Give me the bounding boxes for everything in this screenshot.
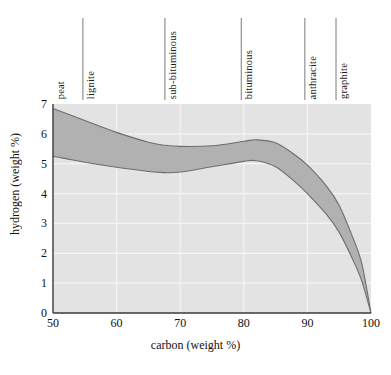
x-tick-label: 100	[362, 316, 380, 331]
y-tick-label: 1	[25, 276, 47, 291]
chart-figure: peat lignite sub-bituminous bituminous a…	[0, 0, 391, 375]
y-tick-label: 4	[25, 186, 47, 201]
category-divider-lines	[83, 18, 336, 100]
x-axis-title: carbon (weight %)	[0, 338, 391, 353]
y-tick-label: 3	[25, 216, 47, 231]
y-axis-title: hydrogen (weight %)	[8, 133, 23, 235]
x-tick-label: 50	[47, 316, 59, 331]
x-tick-label: 70	[174, 316, 186, 331]
x-tick-label: 80	[238, 316, 250, 331]
x-tick-label: 90	[301, 316, 313, 331]
y-tick-label: 0	[25, 306, 47, 321]
category-label-sub-bituminous: sub-bituminous	[168, 31, 179, 99]
y-tick-label: 7	[25, 97, 47, 112]
category-label-peat: peat	[56, 81, 67, 99]
category-label-anthracite: anthracite	[308, 56, 319, 99]
x-tick-label: 60	[111, 316, 123, 331]
category-label-bituminous: bituminous	[244, 50, 255, 99]
category-label-lignite: lignite	[86, 71, 97, 99]
category-label-graphite: graphite	[339, 63, 350, 99]
y-tick-label: 2	[25, 246, 47, 261]
y-tick-label: 5	[25, 156, 47, 171]
y-tick-label: 6	[25, 126, 47, 141]
